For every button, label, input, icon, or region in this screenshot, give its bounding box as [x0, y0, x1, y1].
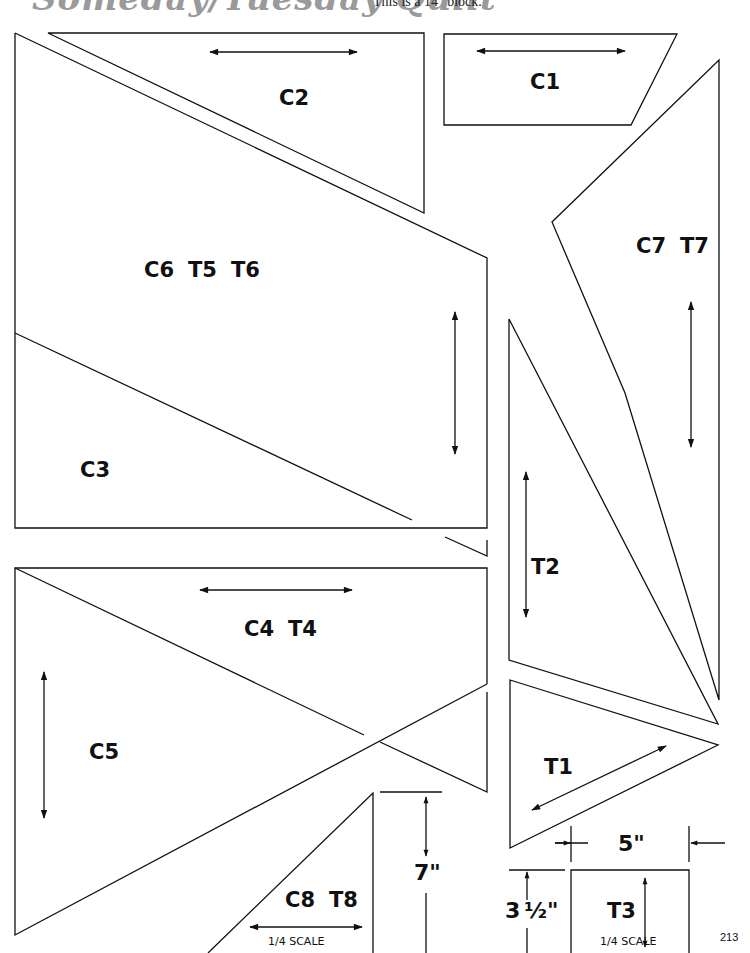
- dimension-height-c8: 7": [414, 860, 441, 885]
- scale-note-c8: 1/4 SCALE: [268, 935, 324, 948]
- label-c3: C3: [80, 458, 110, 482]
- label-c6: C6: [144, 258, 174, 282]
- label-c6-t5-t6: C6T5T6: [144, 258, 260, 282]
- label-c2: C2: [279, 86, 309, 110]
- dimension-height-t3: 3½": [505, 898, 559, 923]
- label-c4-t4: C4T4: [244, 617, 317, 641]
- piece-c2-outline: [48, 33, 424, 213]
- label-c8-t8: C8T8: [285, 888, 358, 912]
- label-c5: C5: [89, 740, 119, 764]
- dimension-width-t3: 5": [618, 831, 645, 856]
- label-t5: T5: [188, 258, 217, 282]
- label-c7-t7: C7T7: [636, 234, 709, 258]
- piece-c8-outline: [208, 793, 373, 953]
- piece-c3-divider: [15, 333, 412, 520]
- pattern-diagram: [0, 0, 750, 953]
- label-c8: C8: [285, 888, 315, 912]
- piece-t1-outline: [510, 680, 718, 848]
- piece-c7-outline: [552, 60, 719, 700]
- label-t2: T2: [531, 555, 560, 579]
- label-t1: T1: [544, 755, 573, 779]
- dimension-height-t3-whole: 3: [505, 898, 520, 923]
- scale-note-t3: 1/4 SCALE: [600, 935, 656, 948]
- label-t7: T7: [680, 234, 709, 258]
- piece-t2-outline: [509, 319, 718, 724]
- page-number: 213: [720, 931, 738, 943]
- piece-c1-outline: [444, 34, 677, 125]
- label-t6: T6: [231, 258, 260, 282]
- label-t8: T8: [329, 888, 358, 912]
- label-t3: T3: [607, 899, 636, 923]
- label-t4: T4: [288, 617, 317, 641]
- dimension-height-t3-frac: ½": [524, 898, 558, 923]
- label-c7: C7: [636, 234, 666, 258]
- label-c1: C1: [530, 70, 560, 94]
- label-c4: C4: [244, 617, 274, 641]
